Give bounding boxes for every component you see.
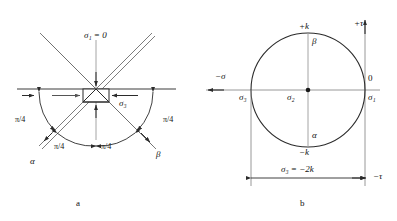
label-angle-upper-left: π/4 — [15, 116, 25, 124]
beta-direction-arrow — [141, 133, 150, 142]
label-beta-slipline: β — [156, 150, 160, 159]
label-zero-origin: 0 — [368, 74, 373, 83]
label-angle-lower-right: π/4 — [101, 143, 111, 151]
panel-b-tag: b — [300, 199, 305, 208]
label-minus-tau: −τ — [373, 172, 382, 181]
label-sigma2-center: σ₂ — [287, 93, 295, 102]
label-sigma3-value: σ₃ = −2k — [281, 165, 314, 174]
label-alpha-mohr: α — [312, 131, 317, 140]
label-sigma1-axis: σ₁ — [368, 93, 376, 102]
label-minus-k: −k — [299, 148, 309, 157]
label-alpha-slipline: α — [30, 157, 35, 166]
label-angle-upper-right: π/4 — [163, 116, 173, 124]
panel-a-drawing — [0, 0, 397, 221]
label-minus-sigma: −σ — [215, 72, 226, 81]
panel-a-tag: a — [76, 199, 80, 208]
circle-center-point — [306, 88, 311, 93]
label-angle-lower-left: π/4 — [54, 143, 64, 151]
label-plus-k: +k — [299, 22, 309, 31]
arc-upper-left — [39, 92, 55, 131]
stress-element-box — [83, 89, 109, 102]
arc-upper-right — [137, 92, 153, 131]
label-plus-tau: +τ — [354, 19, 363, 28]
panel-b-group — [206, 20, 380, 186]
label-sigma1-zero: σ₁ = 0 — [84, 31, 107, 40]
label-sigma3-axis: σ₃ — [239, 93, 247, 102]
panel-a-group — [17, 33, 176, 149]
label-sigma3-element: σ₃ — [119, 99, 127, 108]
label-beta-mohr: β — [312, 37, 316, 46]
figure-root: σ₁ = 0 σ₃ π/4 π/4 π/4 π/4 α β a +k β +τ … — [0, 0, 397, 221]
